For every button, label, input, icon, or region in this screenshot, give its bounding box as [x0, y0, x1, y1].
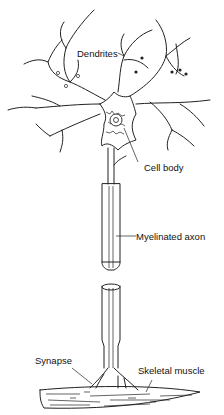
cell-body-drawing [100, 92, 136, 150]
neuron-diagram [0, 0, 224, 415]
skeletal-muscle-label: Skeletal muscle [138, 366, 205, 376]
axon-drawing [90, 148, 138, 390]
dendrites-label: Dendrites [77, 49, 118, 59]
skeletal-muscle-drawing [40, 387, 200, 409]
dendrites-drawing [8, 10, 210, 152]
synapse-label: Synapse [35, 356, 72, 366]
myelinated-axon-label: Myelinated axon [136, 232, 205, 242]
cell-body-label: Cell body [144, 163, 184, 173]
